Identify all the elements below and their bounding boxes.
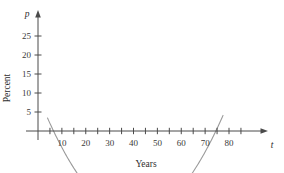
chart-background: [0, 0, 284, 173]
x-axis-tick-label: 60: [177, 138, 187, 148]
x-axis-tick-label: 40: [129, 138, 139, 148]
y-axis-tick-label: 25: [22, 31, 32, 41]
x-axis-tick-label: 10: [57, 138, 67, 148]
x-axis-tick-label: 50: [153, 138, 163, 148]
x-axis-tick-label: 80: [225, 138, 235, 148]
y-axis-tick-label: 5: [27, 107, 32, 117]
x-axis-title: Years: [135, 159, 157, 169]
x-axis-tick-label: 30: [105, 138, 115, 148]
y-axis-tick-label: 15: [22, 69, 32, 79]
y-axis-tick-label: 10: [22, 88, 32, 98]
x-axis-tick-label: 20: [81, 138, 91, 148]
y-axis-tick-label: 20: [22, 50, 32, 60]
x-axis-variable-label: t: [271, 140, 274, 150]
x-axis-tick-label: 70: [201, 138, 211, 148]
y-axis-variable-label: p: [24, 9, 30, 19]
parabola-percent-chart: 510152025 1020304050607080 p t Percent Y…: [0, 0, 284, 173]
y-axis-title: Percent: [2, 73, 12, 102]
chart-figure: 510152025 1020304050607080 p t Percent Y…: [0, 0, 284, 173]
